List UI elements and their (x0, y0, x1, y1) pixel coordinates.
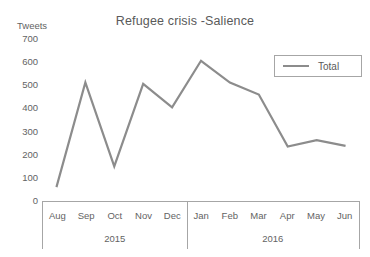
x-axis-tick-may: May (302, 202, 331, 228)
y-axis-tick-0: 0 (12, 196, 38, 206)
y-axis-tick-400: 400 (12, 103, 38, 113)
x-axis-group-2015: 2015 (43, 228, 187, 249)
category-axis-months: AugSepOctNovDecJanFebMarAprMayJun (43, 202, 359, 228)
y-axis-tick-300: 300 (12, 127, 38, 137)
y-axis-tick-labels: 0100200300400500600700 (10, 0, 38, 257)
x-axis-tick-feb: Feb (215, 202, 244, 228)
legend-line-swatch (283, 65, 309, 67)
x-axis-tick-mar: Mar (244, 202, 273, 228)
y-axis-tick-700: 700 (12, 34, 38, 44)
y-axis-tick-200: 200 (12, 150, 38, 160)
x-axis-tick-jan: Jan (187, 202, 216, 228)
category-axis-years: 20152016 (43, 228, 359, 249)
series-line-total (56, 61, 345, 187)
y-axis-tick-500: 500 (12, 80, 38, 90)
chart-title: Refugee crisis -Salience (0, 14, 370, 28)
x-axis-tick-apr: Apr (273, 202, 302, 228)
y-axis-tick-100: 100 (12, 173, 38, 183)
legend-label-total: Total (318, 61, 339, 72)
category-axis: AugSepOctNovDecJanFebMarAprMayJun 201520… (42, 201, 360, 249)
line-chart: Refugee crisis -Salience Tweets 01002003… (0, 0, 370, 257)
x-axis-tick-dec: Dec (158, 202, 187, 228)
x-axis-tick-jun: Jun (330, 202, 359, 228)
y-axis-tick-600: 600 (12, 57, 38, 67)
x-axis-tick-aug: Aug (43, 202, 72, 228)
x-axis-tick-sep: Sep (72, 202, 101, 228)
x-axis-group-2016: 2016 (187, 228, 359, 249)
x-axis-tick-nov: Nov (129, 202, 158, 228)
x-axis-tick-oct: Oct (100, 202, 129, 228)
category-group-divider (187, 202, 188, 249)
chart-legend: Total (274, 55, 362, 77)
